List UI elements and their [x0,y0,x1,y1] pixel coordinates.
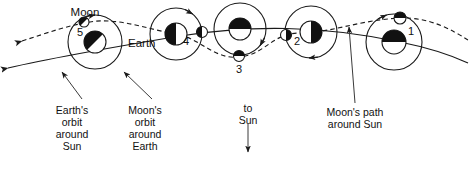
moon-path-caption: Moon's patharound Sun [327,106,384,130]
position-number-1: 1 [408,25,414,37]
position-1: 1 [366,12,422,70]
earth-orbit-text-line-1: Earth's [56,104,88,116]
earth-body [84,31,106,53]
moon-orbit-text-line-1: Moon's [128,104,162,116]
to-sun-text-line-1: to [244,102,253,114]
moon-path-leader [349,27,355,103]
earth-orbit-text-line-2: orbit [62,116,83,128]
moon-orbit-leader [124,72,152,99]
position-3: 3 [214,3,266,75]
moon-body [281,30,292,41]
moon-path-text-line-1: Moon's path [327,106,384,118]
leader-lines [62,27,355,152]
position-2: 2 [281,6,338,58]
orbit-direction-arrow [378,15,387,19]
position-number-3: 3 [236,63,242,75]
position-number-4: 4 [183,35,189,47]
earth-body [382,30,406,54]
moon-orbit-caption: Moon'sorbitaroundEarth [128,104,162,152]
diagram-canvas: 54321 Moon Earth Earth'sorbitaroundSun M… [0,0,472,172]
moon-path-text-line-2: around Sun [328,118,382,130]
position-5: 5 [68,15,122,69]
orbit-direction-arrow [260,38,264,46]
moon-orbit-text-line-3: around [129,128,162,140]
position-number-5: 5 [77,26,83,38]
position-number-2: 2 [294,35,300,47]
moon-body [394,12,406,24]
orbit-direction-arrow [309,57,318,58]
moon-orbit-text-line-2: orbit [135,116,156,128]
moon-path-diagram: 54321 Moon Earth Earth'sorbitaroundSun M… [0,0,472,172]
moon-orbit-text-line-4: Earth [132,140,157,152]
moon-body [197,27,208,38]
earth-orbit-text-line-3: around [56,128,89,140]
earth-moon-position-group: 54321 [68,3,422,75]
earth-body [300,21,322,43]
earth-label: Earth [128,37,156,49]
earth-orbit-leader [62,72,82,99]
orbit-direction-arrow [185,10,193,14]
to-sun-caption: toSun [239,102,258,126]
moon-label: Moon [71,6,100,18]
earth-orbit-caption: Earth'sorbitaroundSun [56,104,89,152]
to-sun-text-line-2: Sun [239,114,258,126]
moon-body [234,51,245,62]
position-4: 4 [150,8,208,60]
earth-body [229,18,251,40]
earth-orbit-text-line-4: Sun [63,140,82,152]
